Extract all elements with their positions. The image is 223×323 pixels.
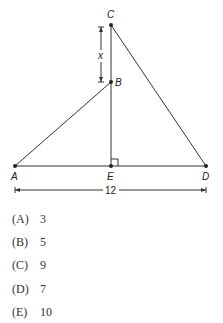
choice-d[interactable]: (D) 7 [12, 278, 52, 301]
geometry-figure: C B A E D x 12 [0, 0, 223, 200]
label-b: B [115, 77, 122, 88]
segment-cd [111, 25, 206, 166]
choice-letter: (A) [12, 208, 40, 231]
choice-value: 10 [40, 301, 52, 323]
choice-value: 5 [40, 231, 46, 254]
choice-b[interactable]: (B) 5 [12, 231, 52, 254]
point-e [109, 164, 113, 168]
choice-value: 9 [40, 254, 46, 277]
choice-letter: (B) [12, 231, 40, 254]
point-b [109, 80, 113, 84]
label-c: C [107, 9, 115, 20]
point-d [204, 164, 208, 168]
choice-a[interactable]: (A) 3 [12, 208, 52, 231]
choice-letter: (D) [12, 278, 40, 301]
label-e: E [107, 171, 114, 182]
segment-ab [15, 82, 111, 166]
choice-c[interactable]: (C) 9 [12, 254, 52, 277]
choice-letter: (C) [12, 254, 40, 277]
choice-value: 7 [40, 278, 46, 301]
label-x: x [97, 50, 104, 61]
choice-letter: (E) [12, 301, 40, 323]
point-c [109, 23, 113, 27]
label-a: A [10, 171, 18, 182]
choice-e[interactable]: (E) 10 [12, 301, 52, 323]
answer-choices: (A) 3 (B) 5 (C) 9 (D) 7 (E) 10 [12, 208, 52, 323]
point-a [13, 164, 17, 168]
label-12: 12 [105, 185, 117, 196]
label-d: D [202, 171, 209, 182]
choice-value: 3 [40, 208, 46, 231]
